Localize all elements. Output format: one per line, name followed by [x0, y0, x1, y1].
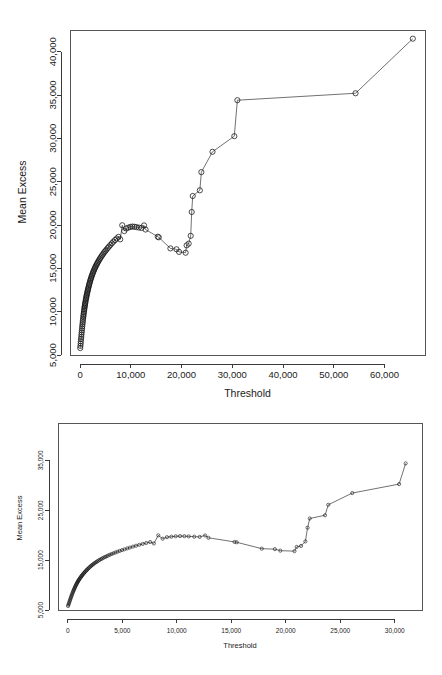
x-tick-label: 5,000 [114, 627, 131, 634]
x-tick-label: 25,000 [330, 627, 350, 634]
y-tick-label: 20,000 [47, 210, 58, 239]
mean-excess-plot-full: 010,00020,00030,00040,00050,00060,0005,0… [0, 0, 442, 408]
mean-excess-chart-zoomed: 05,00010,00015,00020,00025,00030,0005,00… [0, 408, 442, 675]
y-tick-label: 25,000 [47, 167, 58, 196]
y-axis-title: Mean Excess [16, 160, 28, 223]
y-tick-label: 10,000 [47, 297, 58, 326]
x-tick-label: 50,000 [319, 369, 348, 380]
y-tick-label: 30,000 [47, 124, 58, 153]
series-line-mean-excess [68, 463, 406, 606]
x-axis-title: Threshold [224, 387, 271, 399]
y-tick-label: 40,000 [47, 37, 58, 66]
x-tick-label: 20,000 [167, 369, 196, 380]
y-tick-label: 5,000 [37, 601, 44, 618]
series-points [66, 462, 407, 608]
x-tick-label: 60,000 [370, 369, 399, 380]
y-tick-label: 5,000 [47, 343, 58, 367]
x-tick-label: 0 [77, 369, 82, 380]
x-tick-label: 30,000 [385, 627, 405, 634]
mean-excess-chart-full: 010,00020,00030,00040,00050,00060,0005,0… [0, 0, 442, 408]
y-tick-label: 25,000 [37, 500, 44, 520]
x-tick-label: 0 [66, 627, 70, 634]
y-tick-label: 35,000 [47, 80, 58, 109]
x-tick-label: 15,000 [221, 627, 241, 634]
x-axis-title: Threshold [223, 641, 256, 650]
y-axis-title: Mean Excess [15, 495, 24, 540]
x-tick-label: 10,000 [116, 369, 145, 380]
y-tick-label: 35,000 [37, 450, 44, 470]
x-tick-label: 40,000 [268, 369, 297, 380]
y-tick-label: 15,000 [37, 550, 44, 570]
series-line-mean-excess [80, 39, 413, 348]
y-tick-label: 15,000 [47, 254, 58, 283]
series-points [78, 36, 416, 351]
x-tick-label: 30,000 [218, 369, 247, 380]
x-tick-label: 20,000 [276, 627, 296, 634]
x-tick-label: 10,000 [167, 627, 187, 634]
mean-excess-plot-zoomed: 05,00010,00015,00020,00025,00030,0005,00… [0, 408, 442, 675]
